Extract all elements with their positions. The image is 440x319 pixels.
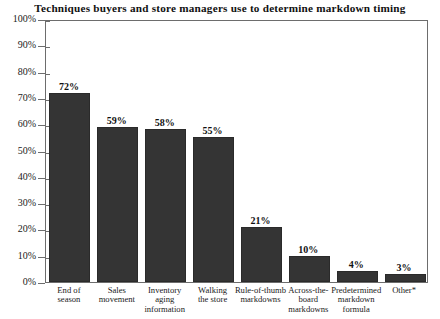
bar-value-label: 21% [240, 215, 281, 226]
x-axis-label-line: formula [329, 305, 383, 314]
bar-value-label: 72% [48, 81, 89, 92]
y-axis-tick-mark-inner [46, 21, 50, 22]
y-axis-tick-label: 30% [18, 197, 36, 208]
x-axis-category-label: Across-the-boardmarkdowns [281, 286, 335, 314]
y-axis-tick-label: 90% [18, 39, 36, 50]
y-axis-tick-mark [38, 283, 45, 284]
bar [241, 227, 282, 282]
x-axis-category-label: Other* [377, 286, 431, 295]
y-axis-tick-mark-inner [46, 47, 50, 48]
x-axis-category-label: Salesmovement [90, 286, 144, 305]
bar-value-label: 58% [144, 117, 185, 128]
bar-value-label: 55% [192, 125, 233, 136]
x-axis-label-line: information [138, 305, 192, 314]
x-axis-label-line: markdowns [281, 305, 335, 314]
bar [145, 129, 186, 282]
bar-value-label: 3% [384, 262, 425, 273]
x-axis-label-line: the store [186, 295, 240, 304]
y-axis-tick-mark [38, 230, 45, 231]
y-axis-tick-mark [38, 73, 45, 74]
x-axis-category-label: Rule-of-thumbmarkdowns [234, 286, 288, 305]
y-axis-tick-mark [38, 152, 45, 153]
x-axis-category-label: End ofseason [42, 286, 96, 305]
y-axis-tick-label: 80% [18, 66, 36, 77]
y-axis-tick-mark [38, 257, 45, 258]
bar [337, 271, 378, 282]
y-axis-tick-label: 40% [18, 171, 36, 182]
y-axis-tick-label: 0% [23, 276, 36, 287]
x-axis-label-line: movement [90, 295, 144, 304]
bar-value-label: 10% [288, 244, 329, 255]
bar [289, 256, 330, 282]
y-axis-tick-label: 70% [18, 92, 36, 103]
y-axis-tick-mark [38, 178, 45, 179]
bar [97, 127, 138, 282]
y-axis-tick-mark [38, 46, 45, 47]
plot-inner [46, 21, 427, 282]
y-axis-tick-label: 10% [18, 250, 36, 261]
x-axis-label-line: markdowns [234, 295, 288, 304]
x-axis-category-label: Predeterminedmarkdownformula [329, 286, 383, 314]
bar [385, 274, 426, 282]
bar-value-label: 59% [96, 115, 137, 126]
x-axis-label-line: season [42, 295, 96, 304]
y-axis-tick-mark [38, 20, 45, 21]
y-axis-tick-mark [38, 125, 45, 126]
plot-area [45, 20, 428, 283]
y-axis-tick-label: 100% [13, 13, 36, 24]
y-axis-tick-mark [38, 204, 45, 205]
bar [49, 93, 90, 282]
y-axis-tick-label: 50% [18, 145, 36, 156]
y-axis-tick-mark [38, 99, 45, 100]
y-axis-tick-mark-inner [46, 74, 50, 75]
y-axis-tick-label: 60% [18, 118, 36, 129]
x-axis-category-label: Inventoryaginginformation [138, 286, 192, 314]
x-axis-label-line: Other* [377, 286, 431, 295]
chart-container: Techniques buyers and store managers use… [0, 0, 440, 319]
bar [193, 137, 234, 282]
y-axis-tick-label: 20% [18, 223, 36, 234]
x-axis-category-label: Walkingthe store [186, 286, 240, 305]
chart-title: Techniques buyers and store managers use… [0, 2, 440, 14]
bar-value-label: 4% [336, 259, 377, 270]
